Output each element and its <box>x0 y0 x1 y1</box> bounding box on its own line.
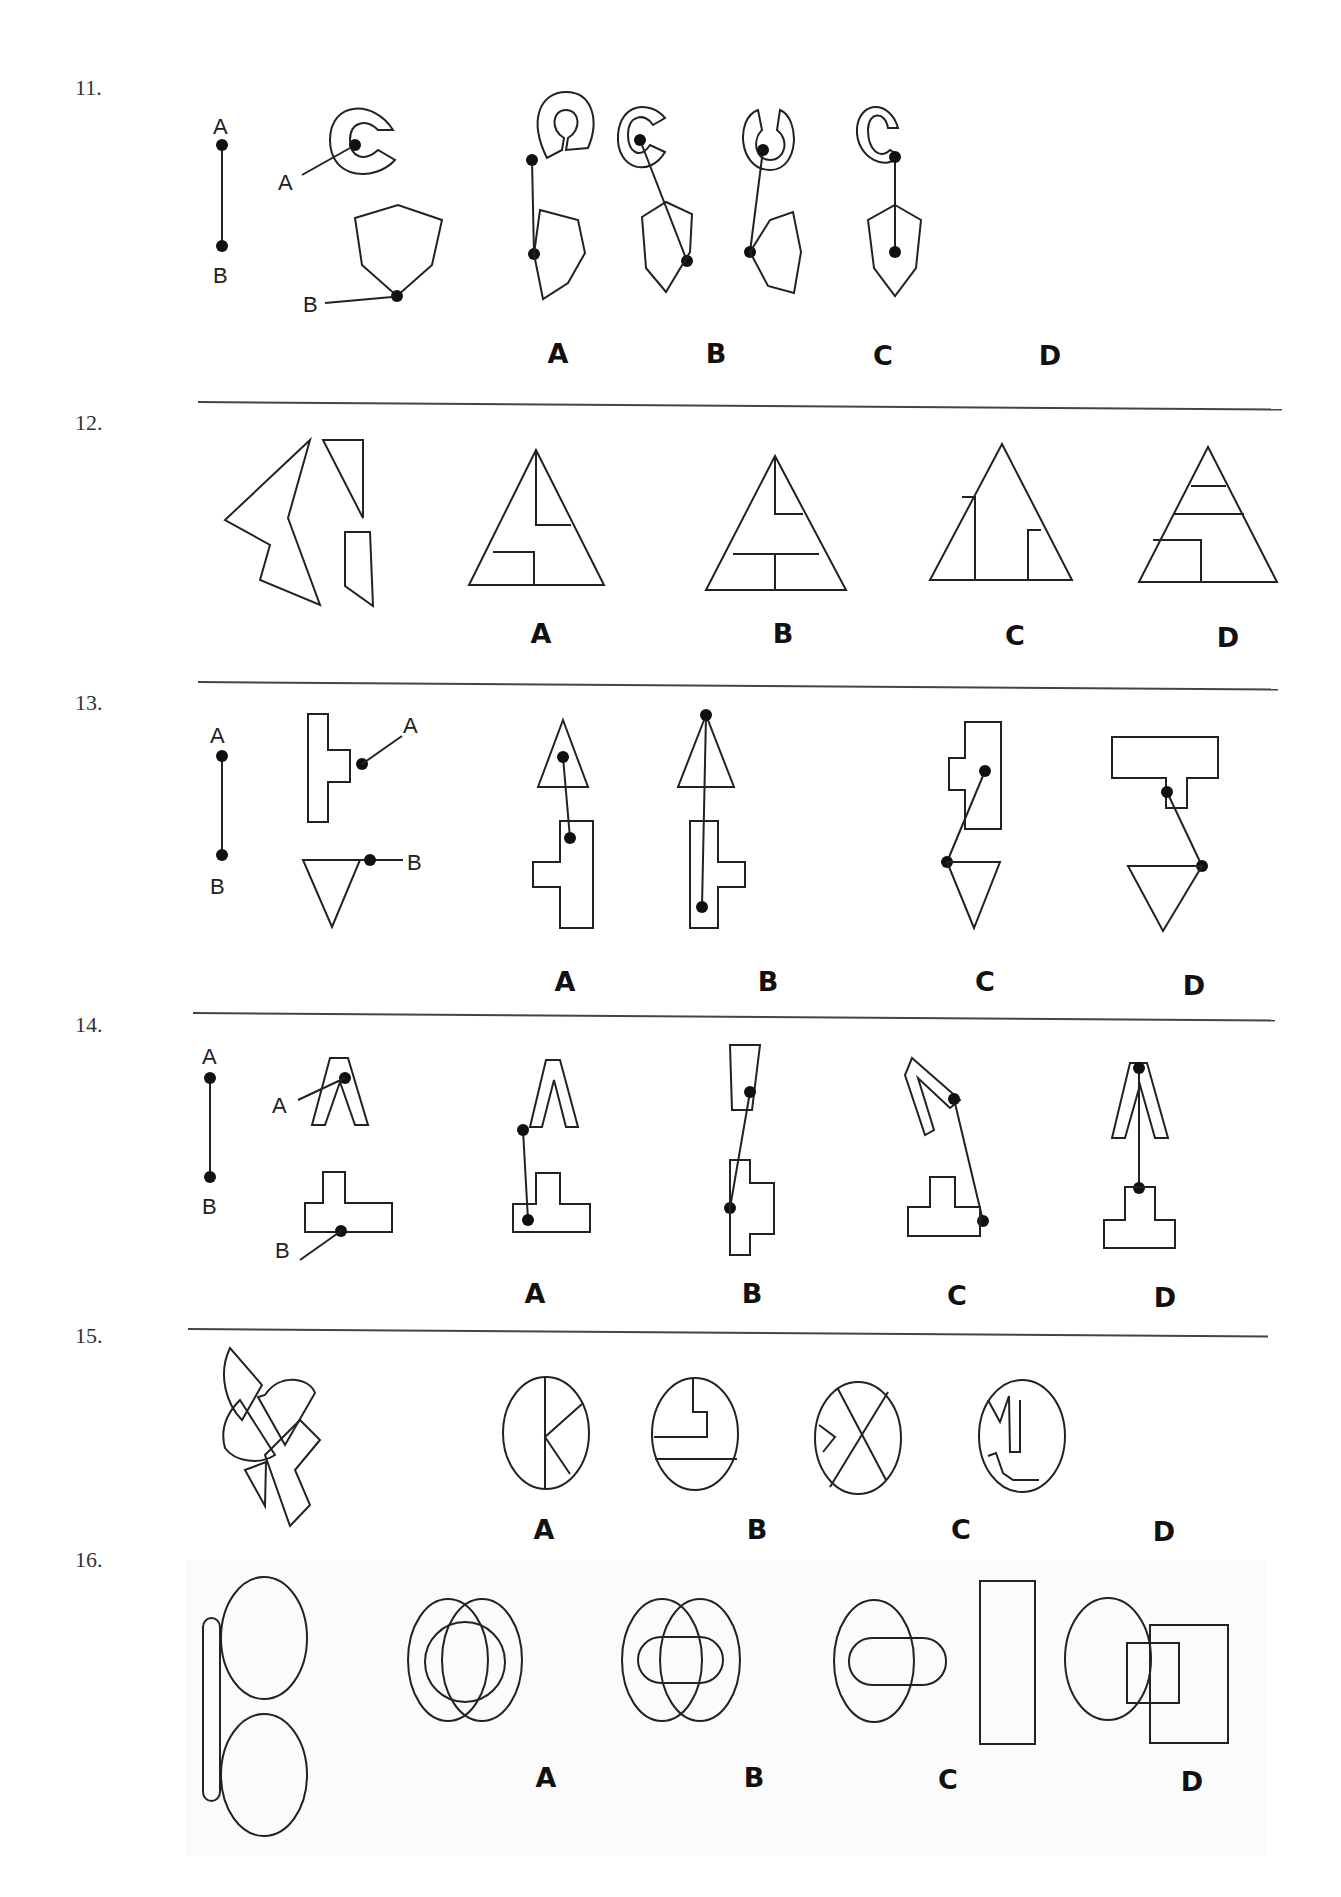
q15-option-d <box>979 1380 1065 1492</box>
q14-option-label-a[interactable]: A <box>525 1278 546 1309</box>
q12-pieces <box>225 440 373 606</box>
q13-option-c <box>941 722 1001 928</box>
q11-shape-label-a: A <box>278 170 293 195</box>
q15-pieces <box>210 1348 320 1526</box>
q12-option-label-b[interactable]: B <box>773 618 794 649</box>
q14-reference-segment: A B <box>202 1044 217 1219</box>
q11-option-d <box>857 107 921 296</box>
q11-reference-segment: A B <box>213 114 228 288</box>
q12-option-d <box>1139 447 1277 582</box>
q13-option-label-a[interactable]: A <box>555 966 576 997</box>
q13-option-label-c[interactable]: C <box>975 966 995 997</box>
q14-option-label-b[interactable]: B <box>742 1278 763 1309</box>
figures-canvas: A B A B <box>0 0 1341 1897</box>
q14-shape-label-b: B <box>275 1238 290 1263</box>
q16-option-label-b[interactable]: B <box>744 1762 765 1793</box>
q11-source-shapes: A B <box>278 109 442 317</box>
q14-source-shapes: A B <box>272 1058 392 1263</box>
q15-option-label-d[interactable]: D <box>1153 1516 1175 1547</box>
q14-option-a <box>513 1060 590 1232</box>
q16-option-label-d[interactable]: D <box>1181 1766 1203 1797</box>
q11-option-b <box>618 107 693 292</box>
q12-option-a <box>469 450 604 585</box>
q14-shape-label-a: A <box>272 1093 287 1118</box>
q11-option-label-b[interactable]: B <box>706 338 727 369</box>
q14-seg-label-a: A <box>202 1044 217 1069</box>
q13-option-a <box>533 720 593 928</box>
q15-option-label-b[interactable]: B <box>747 1514 768 1545</box>
q12-option-c <box>930 444 1072 580</box>
q14-option-label-d[interactable]: D <box>1154 1282 1176 1313</box>
q11-option-label-a[interactable]: A <box>548 338 569 369</box>
q11-option-c <box>743 110 801 293</box>
q16-option-b <box>622 1599 740 1721</box>
q14-option-b <box>724 1045 774 1255</box>
q14-option-c <box>905 1058 989 1236</box>
q16-option-d <box>1065 1598 1228 1743</box>
q11-seg-label-a: A <box>213 114 228 139</box>
q15-option-c <box>815 1382 901 1494</box>
q15-option-label-c[interactable]: C <box>951 1514 971 1545</box>
q11-shape-label-b: B <box>303 292 318 317</box>
q14-option-d <box>1104 1062 1175 1248</box>
q13-source-shapes: A B <box>303 713 422 927</box>
q11-option-label-d[interactable]: D <box>1039 340 1061 371</box>
q13-shape-label-a: A <box>403 713 418 738</box>
q12-option-label-c[interactable]: C <box>1005 620 1025 651</box>
q13-option-d <box>1112 737 1218 931</box>
q11-seg-label-b: B <box>213 263 228 288</box>
q13-seg-label-a: A <box>210 723 225 748</box>
q13-option-label-b[interactable]: B <box>758 966 779 997</box>
q16-option-c <box>834 1581 1035 1744</box>
q11-option-label-c[interactable]: C <box>873 340 893 371</box>
q14-seg-label-b: B <box>202 1194 217 1219</box>
q15-option-a <box>503 1377 589 1489</box>
q16-option-label-c[interactable]: C <box>938 1764 958 1795</box>
q13-shape-label-b: B <box>407 850 422 875</box>
q16-option-label-a[interactable]: A <box>536 1762 557 1793</box>
q12-option-b <box>706 456 846 590</box>
q13-reference-segment: A B <box>210 723 228 899</box>
q15-option-label-a[interactable]: A <box>534 1514 555 1545</box>
q13-seg-label-b: B <box>210 874 225 899</box>
q13-option-b <box>678 709 745 928</box>
q16-source-shapes <box>203 1577 307 1836</box>
q11-option-a <box>526 92 593 299</box>
q15-option-b <box>652 1378 738 1490</box>
q16-option-a <box>408 1599 522 1721</box>
q12-option-label-d[interactable]: D <box>1217 622 1239 653</box>
q12-option-label-a[interactable]: A <box>531 618 552 649</box>
q14-option-label-c[interactable]: C <box>947 1280 967 1311</box>
q13-option-label-d[interactable]: D <box>1183 970 1205 1001</box>
